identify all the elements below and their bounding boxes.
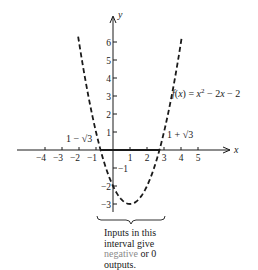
y-tick-label: 5 — [106, 56, 111, 66]
y-tick-label: 3 — [106, 92, 111, 102]
y-tick-labels: −3−2−1123456 — [101, 38, 128, 210]
y-tick-label: −1 — [118, 164, 128, 174]
x-tick-label: 4 — [179, 153, 184, 163]
caption-or-zero: or 0 — [138, 248, 156, 259]
function-label: f(x) = x2 − 2x − 2 — [172, 87, 240, 100]
x-tick-label: 5 — [196, 153, 201, 163]
y-tick-label: 6 — [106, 38, 111, 48]
x-tick-labels: −4−3−2−112345 — [36, 153, 201, 163]
y-tick-label: −2 — [101, 182, 111, 192]
y-tick-label: 2 — [106, 110, 111, 120]
x-tick-label: 2 — [145, 153, 150, 163]
caption-line-1: Inputs in this — [104, 228, 156, 239]
x-tick-label: −1 — [87, 153, 97, 163]
root-right-label: 1 + √3 — [167, 129, 193, 140]
x-tick-label: 1 — [128, 153, 133, 163]
x-tick-label: 3 — [162, 153, 167, 163]
x-tick-label: −4 — [36, 153, 46, 163]
y-axis-label: y — [117, 9, 123, 20]
x-axis-label: x — [233, 144, 239, 155]
y-tick-label: 1 — [106, 128, 111, 138]
caption-line-4: outputs. — [104, 260, 156, 270]
x-tick-label: −2 — [70, 153, 80, 163]
parabola-curve — [78, 37, 182, 204]
caption-line-3: negative or 0 — [104, 249, 156, 260]
root-left-label: 1 − √3 — [66, 133, 92, 144]
x-tick-label: −3 — [53, 153, 63, 163]
caption-negative: negative — [104, 248, 138, 259]
interval-caption: Inputs in this interval give negative or… — [104, 228, 156, 270]
y-tick-label: 4 — [106, 74, 111, 84]
axes — [17, 17, 230, 212]
interval-brace — [97, 216, 165, 224]
y-tick-label: −3 — [101, 200, 111, 210]
y-ticks — [113, 42, 117, 204]
